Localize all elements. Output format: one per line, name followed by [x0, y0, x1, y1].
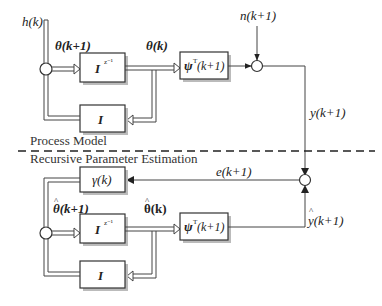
feedback-block-bottom: I: [80, 261, 128, 291]
summing-junction-bottom: [40, 227, 52, 239]
svg-text:z⁻¹: z⁻¹: [104, 219, 113, 227]
theta-line: [125, 63, 180, 125]
output-y-line: [263, 66, 306, 170]
summing-junction-top: [40, 63, 52, 75]
theta-label: θ(k): [146, 38, 168, 53]
feedback-line-bottom: [44, 239, 80, 276]
svg-text:γ(k): γ(k): [92, 172, 112, 187]
svg-text:I: I: [97, 112, 104, 127]
summing-junction-noise: [252, 61, 263, 72]
theta-next-line: [52, 64, 80, 74]
process-model-label: Process Model: [30, 133, 107, 148]
svg-text:I: I: [94, 61, 101, 76]
estimation-label: Recursive Parameter Estimation: [30, 151, 198, 166]
output-y-label: y(k+1): [308, 105, 345, 120]
svg-text:z⁻¹: z⁻¹: [104, 58, 113, 66]
regressor-block-top: ψ T (k+1): [180, 52, 231, 82]
svg-text:I: I: [94, 222, 101, 237]
input-h-label: h(k): [22, 14, 43, 29]
error-label: e(k+1): [216, 164, 251, 179]
output-y-hat-line: [228, 191, 305, 227]
delay-block-bottom: I z⁻¹: [80, 214, 128, 246]
noise-label: n(k+1): [240, 8, 276, 23]
feedback-line-top: [44, 75, 80, 120]
svg-text:ψ: ψ: [184, 58, 193, 73]
input-h-line: [44, 20, 48, 63]
gain-block: γ(k): [80, 167, 128, 195]
theta-hat-line: [125, 224, 180, 281]
svg-text:(k+1): (k+1): [197, 59, 224, 73]
summing-junction-error: [300, 175, 311, 186]
block-diagram: h(k) θ(k+1) I z⁻¹ θ(k) ψ T (k+1): [0, 0, 382, 306]
feedback-block-top: I: [80, 105, 128, 135]
svg-text:ψ: ψ: [184, 219, 193, 234]
delay-block-top: I z⁻¹: [80, 53, 128, 85]
theta-hat-next-line: [52, 228, 80, 238]
theta-next-label: θ(k+1): [55, 38, 91, 53]
svg-text:I: I: [97, 268, 104, 283]
svg-text:(k+1): (k+1): [197, 220, 224, 234]
regressor-block-bottom: ψ T (k+1): [180, 213, 231, 243]
